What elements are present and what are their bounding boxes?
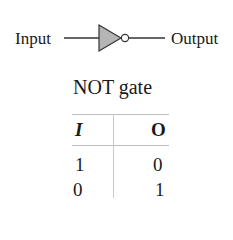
column-divider [113, 114, 114, 198]
row-1-output: 0 [153, 155, 163, 174]
row-2-output: 1 [155, 180, 165, 199]
truth-table-title: NOT gate [73, 77, 152, 97]
header-output: O [151, 120, 166, 139]
table-header-rule [72, 145, 169, 146]
inversion-bubble-icon [121, 34, 128, 41]
row-2-input: 0 [73, 180, 83, 199]
buffer-triangle-icon [99, 25, 121, 51]
output-label: Output [171, 30, 218, 47]
row-1-input: 1 [75, 155, 85, 174]
header-input: I [75, 120, 82, 139]
table-top-rule [72, 114, 169, 115]
